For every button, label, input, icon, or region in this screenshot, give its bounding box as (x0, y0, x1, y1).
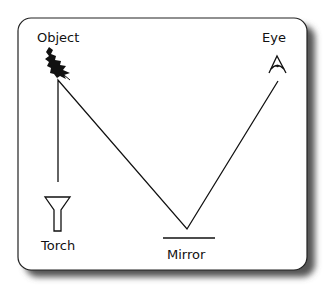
light-path-diagram: Object Eye Torch Mirror (0, 0, 331, 292)
object-label: Object (37, 30, 79, 45)
torch-label: Torch (40, 238, 75, 253)
eye-label: Eye (262, 30, 286, 45)
mirror-label: Mirror (167, 247, 206, 262)
diagram-card (18, 18, 307, 270)
